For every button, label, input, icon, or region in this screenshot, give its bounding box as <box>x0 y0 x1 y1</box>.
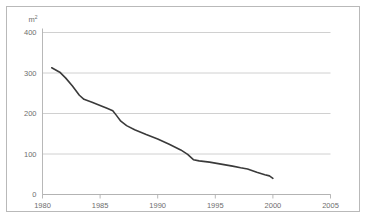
data-series-group <box>52 68 273 179</box>
chart-figure: 0100200300400 198019851990199520002005 m… <box>0 0 368 224</box>
y-axis-unit-label-group: m2 <box>29 14 38 24</box>
axes-group <box>43 29 331 195</box>
x-tick-label-1980: 1980 <box>34 201 51 210</box>
y-tick-label-100: 100 <box>24 150 37 159</box>
y-tick-label-200: 200 <box>24 109 37 118</box>
gridlines-group <box>43 33 331 195</box>
x-tick-label-1995: 1995 <box>207 201 224 210</box>
x-axis-ticks-group <box>43 195 331 199</box>
x-tick-label-2000: 2000 <box>265 201 282 210</box>
x-axis-tick-labels-group: 198019851990199520002005 <box>34 201 339 210</box>
x-tick-label-1990: 1990 <box>149 201 166 210</box>
y-axis-unit-exponent: 2 <box>35 14 38 20</box>
y-tick-label-300: 300 <box>24 69 37 78</box>
x-tick-label-2005: 2005 <box>322 201 339 210</box>
y-tick-label-400: 400 <box>24 28 37 37</box>
y-tick-label-0: 0 <box>32 190 36 199</box>
x-tick-label-1985: 1985 <box>92 201 109 210</box>
y-axis-tick-labels-group: 0100200300400 <box>24 28 37 199</box>
line-chart: 0100200300400 198019851990199520002005 m… <box>0 0 368 224</box>
y-axis-unit-label: m2 <box>29 14 38 24</box>
data-line-series-0 <box>52 68 273 179</box>
